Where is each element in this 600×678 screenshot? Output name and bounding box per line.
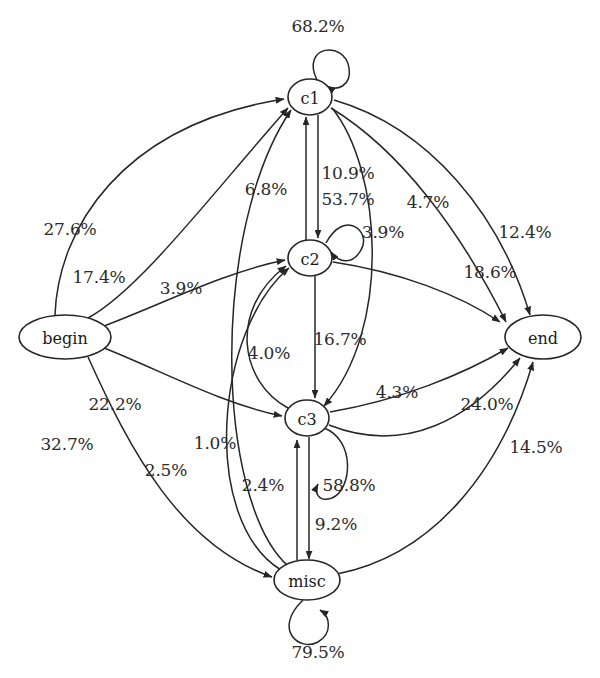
edge-label-c3-self: 58.8% bbox=[322, 475, 375, 495]
node-c2-label: c2 bbox=[300, 250, 319, 269]
edge-label-c3-end-inner: 4.3% bbox=[376, 382, 418, 402]
edge-label-misc-end: 14.5% bbox=[509, 437, 562, 457]
edge-label-misc-self: 79.5% bbox=[291, 642, 344, 662]
edge-label-c3-end-outer: 24.0% bbox=[460, 394, 513, 414]
graph-canvas: begin c1 c2 c3 misc end bbox=[0, 0, 600, 678]
node-begin[interactable]: begin bbox=[19, 315, 111, 359]
edge-label-c1-end-outer: 12.4% bbox=[498, 222, 551, 242]
edge-layer bbox=[55, 50, 533, 644]
edge-label-c1-self: 68.2% bbox=[291, 16, 344, 36]
node-c1[interactable]: c1 bbox=[288, 79, 332, 115]
edge-label-begin-c2: 3.9% bbox=[160, 278, 202, 298]
node-end-label: end bbox=[528, 329, 558, 348]
edge-label-c3-c2: 4.0% bbox=[248, 343, 290, 363]
node-c1-label: c1 bbox=[300, 89, 319, 108]
edge-label-c1-c3: 3.9% bbox=[362, 222, 404, 242]
edge-c1-end-inner bbox=[331, 108, 506, 322]
edge-label-misc-c3: 2.4% bbox=[242, 475, 284, 495]
edge-c3-c2 bbox=[247, 266, 288, 408]
edge-label-begin-misc: 32.7% bbox=[40, 434, 93, 454]
edge-label-c2-c1: 6.8% bbox=[245, 179, 287, 199]
node-misc[interactable]: misc bbox=[274, 560, 340, 600]
edge-label-misc-c1: 1.0% bbox=[194, 433, 236, 453]
node-c3-label: c3 bbox=[297, 410, 316, 429]
node-end[interactable]: end bbox=[505, 315, 581, 359]
edge-label-c2-self: 53.7% bbox=[321, 189, 374, 209]
node-c3[interactable]: c3 bbox=[285, 400, 329, 436]
state-transition-diagram: begin c1 c2 c3 misc end bbox=[0, 0, 600, 678]
edge-label-misc-c2: 2.5% bbox=[145, 460, 187, 480]
edge-label-c1-end-inner: 4.7% bbox=[407, 192, 449, 212]
node-misc-label: misc bbox=[288, 572, 326, 591]
edge-label-begin-c1-outer: 27.6% bbox=[43, 219, 96, 239]
edge-label-c3-misc: 9.2% bbox=[315, 514, 357, 534]
edge-label-begin-c3: 22.2% bbox=[88, 394, 141, 414]
edge-misc-self bbox=[289, 600, 328, 644]
node-c2[interactable]: c2 bbox=[288, 240, 332, 276]
edge-label-c2-c3: 16.7% bbox=[313, 329, 366, 349]
node-begin-label: begin bbox=[42, 329, 87, 348]
edge-label-c1-c2: 10.9% bbox=[321, 163, 374, 183]
edge-label-c2-end: 18.6% bbox=[463, 262, 516, 282]
edge-label-begin-c1-inner: 17.4% bbox=[72, 267, 125, 287]
node-layer: begin c1 c2 c3 misc end bbox=[19, 79, 581, 600]
edge-misc-c2 bbox=[227, 268, 289, 570]
